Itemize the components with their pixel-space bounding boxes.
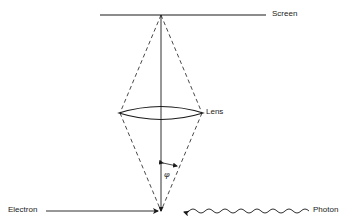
angle-indicator [163,163,177,166]
ray-upper-right [161,15,202,113]
electron-label: Electron [8,205,37,214]
screen-label: Screen [272,9,297,18]
photon-label: Photon [313,205,338,214]
ray-lower-right [161,113,202,211]
ray-upper-left [120,15,161,113]
lens-label: Lens [206,107,223,116]
ray-lower-left [120,113,161,211]
microscope-diagram [0,0,349,221]
photon-wave [184,209,309,213]
angle-phi-label: φ [164,170,170,179]
